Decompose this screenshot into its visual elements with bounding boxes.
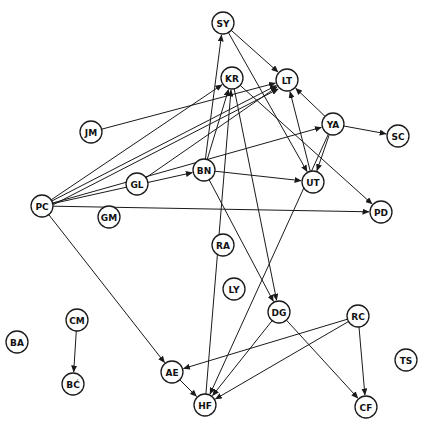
node-label: CF	[360, 403, 373, 413]
node-pc: PC	[31, 195, 53, 217]
node-dg: DG	[268, 301, 290, 323]
edge-ya-to-lt	[296, 88, 325, 116]
edge-sy-to-ut	[228, 33, 307, 172]
node-label: PC	[35, 202, 49, 212]
edge-bn-to-ut	[215, 171, 301, 181]
node-label: LY	[229, 285, 240, 295]
edge-cm-to-bc	[74, 331, 77, 372]
edge-sy-to-lt	[231, 30, 278, 72]
edge-rc-to-hf	[215, 322, 348, 400]
edge-ya-to-ut	[317, 134, 330, 170]
node-label: BĆ	[66, 379, 80, 390]
node-label: GL	[130, 180, 143, 190]
node-ya: YA	[322, 113, 344, 135]
node-bn: BN	[193, 159, 215, 181]
node-jm: JM	[80, 121, 102, 143]
node-sc: SC	[387, 125, 409, 147]
edge-pc-to-lt	[52, 86, 276, 202]
node-label: RC	[351, 312, 365, 322]
node-label: HF	[198, 401, 212, 411]
node-label: YA	[326, 120, 340, 130]
edge-ya-to-sc	[344, 126, 386, 134]
edge-pc-to-bn	[53, 173, 193, 204]
edge-kr-to-dg	[234, 89, 276, 300]
node-label: GM	[101, 213, 117, 223]
edge-dg-to-cf	[286, 320, 358, 398]
edge-dg-to-hf	[213, 321, 273, 396]
edge-pc-to-ae	[49, 215, 165, 363]
node-label: BA	[10, 338, 24, 348]
node-label: LT	[282, 76, 293, 86]
node-cf: CF	[355, 396, 377, 418]
nodes-layer: SYKRLTJMYASCGLBNUTPCGMPDRALYDGRCCMBAAETS…	[6, 12, 417, 418]
node-ly: LY	[223, 278, 245, 300]
node-pd: PD	[370, 201, 392, 223]
node-sy: SY	[212, 12, 234, 34]
node-lt: LT	[276, 69, 298, 91]
node-ut: UT	[302, 171, 324, 193]
node-bc: BĆ	[62, 373, 84, 395]
node-label: JM	[84, 128, 97, 138]
edge-pc-to-lt	[54, 89, 279, 205]
node-ba: BA	[6, 331, 28, 353]
node-hf: HF	[194, 394, 216, 416]
node-label: SC	[391, 132, 404, 142]
node-label: TS	[400, 356, 413, 366]
node-label: KR	[225, 74, 239, 84]
node-cm: CM	[66, 309, 88, 331]
node-label: RA	[216, 241, 230, 251]
node-gm: GM	[98, 206, 120, 228]
node-label: DG	[272, 308, 287, 318]
node-label: UT	[306, 178, 320, 188]
node-ra: RA	[212, 234, 234, 256]
node-ts: TS	[395, 349, 417, 371]
node-label: CM	[69, 316, 85, 326]
edge-rc-to-ae	[184, 319, 348, 368]
node-rc: RC	[347, 305, 369, 327]
edge-rc-to-cf	[359, 327, 365, 395]
node-label: BN	[197, 166, 211, 176]
node-label: AE	[165, 368, 178, 378]
node-ae: AE	[161, 361, 183, 383]
node-label: PD	[374, 208, 388, 218]
node-kr: KR	[221, 67, 243, 89]
edge-ae-to-hf	[180, 380, 197, 397]
node-label: SY	[217, 19, 230, 29]
sociogram-canvas: SYKRLTJMYASCGLBNUTPCGMPDRALYDGRCCMBAAETS…	[0, 0, 432, 430]
node-gl: GL	[126, 173, 148, 195]
